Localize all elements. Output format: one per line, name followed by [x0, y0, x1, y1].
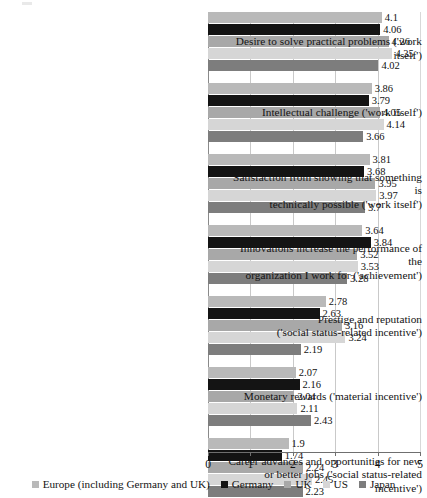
bar[interactable] [208, 438, 289, 449]
category-label-line: ('social status-related incentive') [224, 326, 422, 340]
category-label-line: Innovations increase the performance of … [224, 242, 422, 269]
bar[interactable] [208, 83, 372, 94]
bar-value-label: 3.66 [363, 130, 384, 143]
bar-value-label: 2.43 [311, 414, 332, 427]
category-label: Prestige and reputation('social status-r… [224, 313, 427, 340]
chart-legend: Europe (including Germany and UK)Germany… [0, 478, 427, 491]
bar-value-label: 2.19 [301, 343, 322, 356]
bar[interactable] [208, 225, 362, 236]
bar[interactable] [208, 415, 311, 426]
category-label: Satisfaction from showing that something… [224, 171, 427, 212]
bar[interactable] [208, 379, 300, 390]
scan-artifact [22, 2, 32, 5]
bar-chart: 4.14.064.264.354.023.863.794.054.143.663… [0, 0, 427, 498]
bar-row: 2.16 [208, 379, 420, 390]
legend-item[interactable]: Europe (including Germany and UK) [32, 478, 210, 491]
bar-row: 2.43 [208, 415, 420, 426]
legend-swatch-icon [323, 481, 330, 488]
bar-row: 4.06 [208, 24, 420, 35]
bar[interactable] [208, 24, 380, 35]
legend-item[interactable]: Japan [359, 478, 395, 491]
legend-label: Germany [232, 478, 274, 491]
bar-row: 2.19 [208, 344, 420, 355]
bar-row: 3.64 [208, 225, 420, 236]
bar-value-label: 4.14 [384, 118, 405, 131]
legend-label: US [334, 478, 348, 491]
legend-item[interactable]: US [323, 478, 348, 491]
category-label: Monetary rewards ('material incentive') [224, 390, 427, 404]
bar[interactable] [208, 119, 384, 130]
bar-row: 2.07 [208, 367, 420, 378]
legend-item[interactable]: Germany [221, 478, 274, 491]
x-tick-0 [208, 452, 209, 456]
category-label-line: Prestige and reputation [224, 313, 422, 327]
bar-row: 4.1 [208, 12, 420, 23]
bar-row: 3.66 [208, 131, 420, 142]
bar-row: 3.86 [208, 83, 420, 94]
legend-swatch-icon [221, 481, 228, 488]
category-label-line: Career advances and opportunities for ne… [224, 455, 422, 469]
bar-row: 2.11 [208, 403, 420, 414]
legend-swatch-icon [359, 481, 366, 488]
legend-item[interactable]: UK [284, 478, 311, 491]
bar[interactable] [208, 95, 369, 106]
category-label-line: Intellectual challenge ('work itself') [224, 106, 422, 120]
bar[interactable] [208, 12, 382, 23]
bar[interactable] [208, 367, 296, 378]
category-label-line: Satisfaction from showing that something… [224, 171, 422, 198]
bar-row: 2.78 [208, 296, 420, 307]
legend-label: UK [295, 478, 311, 491]
bar-row: 1.9 [208, 438, 420, 449]
bar[interactable] [208, 131, 363, 142]
bar-row: 3.79 [208, 95, 420, 106]
plot-area: 4.14.064.264.354.023.863.794.054.143.663… [208, 12, 420, 452]
bar[interactable] [208, 403, 297, 414]
bar[interactable] [208, 296, 326, 307]
bar[interactable] [208, 154, 370, 165]
legend-swatch-icon [32, 481, 39, 488]
legend-label: Europe (including Germany and UK) [43, 478, 210, 491]
legend-label: Japan [370, 478, 395, 491]
category-label-line: Desire to solve practical problems ('wor… [224, 35, 422, 62]
category-label: Innovations increase the performance of … [224, 242, 427, 283]
bar-row: 4.14 [208, 119, 420, 130]
category-label: Desire to solve practical problems ('wor… [224, 35, 427, 62]
category-label-line: organization I work for ('achievement') [224, 269, 422, 283]
category-label: Intellectual challenge ('work itself') [224, 106, 427, 120]
legend-swatch-icon [284, 481, 291, 488]
category-label-line: technically possible ('work itself') [224, 198, 422, 212]
bar-row: 3.81 [208, 154, 420, 165]
x-tick-label-0: 0 [205, 457, 211, 471]
bar[interactable] [208, 344, 301, 355]
category-label-line: Monetary rewards ('material incentive') [224, 390, 422, 404]
gridline-5 [420, 12, 421, 452]
